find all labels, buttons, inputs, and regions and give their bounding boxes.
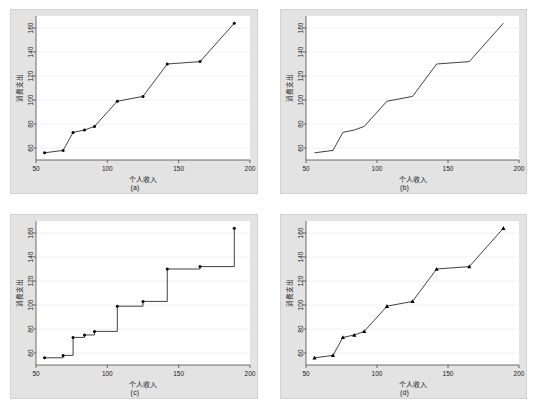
y-tick-label: 60 xyxy=(297,349,304,357)
data-point-marker xyxy=(62,354,65,357)
y-tick-label: 160 xyxy=(27,22,34,33)
x-tick-label: 50 xyxy=(32,165,40,172)
y-tick-label: 120 xyxy=(297,70,304,81)
y-tick-label: 100 xyxy=(297,299,304,310)
y-tick-label: 80 xyxy=(27,120,34,128)
y-tick-label: 60 xyxy=(297,144,304,152)
plot-area-background xyxy=(306,221,519,365)
chart-panel-a: 608010012014016050100150200个人收入消费支出 (a) xyxy=(0,0,270,205)
y-tick-label: 80 xyxy=(297,325,304,333)
chart-group: 608010012014016050100150200个人收入消费支出 xyxy=(15,16,256,184)
data-point-marker xyxy=(142,300,145,303)
y-tick-label: 140 xyxy=(27,46,34,57)
chart-group: 608010012014016050100150200个人收入消费支出 xyxy=(285,221,525,389)
subplot-label-a: (a) xyxy=(0,184,270,191)
y-tick-label: 80 xyxy=(297,120,304,128)
data-point-marker xyxy=(233,22,236,25)
x-tick-label: 50 xyxy=(302,370,310,377)
y-tick-label: 100 xyxy=(27,299,34,310)
chart-svg-a: 608010012014016050100150200个人收入消费支出 xyxy=(0,0,270,205)
data-point-marker xyxy=(199,60,202,63)
data-point-marker xyxy=(233,227,236,230)
y-tick-label: 100 xyxy=(297,94,304,105)
y-tick-label: 160 xyxy=(297,22,304,33)
y-tick-label: 120 xyxy=(27,70,34,81)
figure-grid: 608010012014016050100150200个人收入消费支出 (a) … xyxy=(0,0,539,410)
y-tick-label: 160 xyxy=(297,227,304,238)
x-tick-label: 200 xyxy=(245,165,256,172)
y-axis-title: 消费支出 xyxy=(285,279,294,307)
plot-area-background xyxy=(36,221,250,365)
x-tick-label: 100 xyxy=(372,165,383,172)
data-point-marker xyxy=(72,131,75,134)
plot-area-background xyxy=(36,16,250,160)
x-tick-label: 100 xyxy=(102,370,113,377)
y-tick-label: 60 xyxy=(27,144,34,152)
chart-svg-c: 608010012014016050100150200个人收入消费支出 xyxy=(0,205,270,410)
chart-panel-d: 608010012014016050100150200个人收入消费支出 (d) xyxy=(270,205,539,410)
data-point-marker xyxy=(43,151,46,154)
plot-area-background xyxy=(306,16,519,160)
y-tick-label: 140 xyxy=(297,46,304,57)
chart-panel-b: 608010012014016050100150200个人收入消费支出 (b) xyxy=(270,0,539,205)
data-point-marker xyxy=(72,336,75,339)
x-tick-label: 150 xyxy=(173,370,184,377)
data-point-marker xyxy=(116,305,119,308)
y-tick-label: 100 xyxy=(27,94,34,105)
y-axis-title: 消费支出 xyxy=(15,279,24,307)
x-axis-title: 个人收入 xyxy=(129,175,157,184)
data-point-marker xyxy=(93,125,96,128)
data-point-marker xyxy=(83,334,86,337)
chart-group: 608010012014016050100150200个人收入消费支出 xyxy=(285,16,525,184)
x-tick-label: 150 xyxy=(443,370,454,377)
x-tick-label: 200 xyxy=(514,370,525,377)
chart-svg-d: 608010012014016050100150200个人收入消费支出 xyxy=(270,205,539,410)
subplot-label-b: (b) xyxy=(270,184,539,191)
x-axis-title: 个人收入 xyxy=(399,380,427,389)
y-axis-title: 消费支出 xyxy=(285,74,294,102)
y-axis-title: 消费支出 xyxy=(15,74,24,102)
data-point-marker xyxy=(116,100,119,103)
y-tick-label: 60 xyxy=(27,349,34,357)
x-tick-label: 200 xyxy=(245,370,256,377)
y-tick-label: 80 xyxy=(27,325,34,333)
chart-panel-c: 608010012014016050100150200个人收入消费支出 (c) xyxy=(0,205,270,410)
x-tick-label: 50 xyxy=(302,165,310,172)
x-axis-title: 个人收入 xyxy=(129,380,157,389)
y-tick-label: 160 xyxy=(27,227,34,238)
data-point-marker xyxy=(93,330,96,333)
y-tick-label: 140 xyxy=(27,251,34,262)
y-tick-label: 120 xyxy=(27,275,34,286)
x-tick-label: 200 xyxy=(514,165,525,172)
data-point-marker xyxy=(166,268,169,271)
x-tick-label: 50 xyxy=(32,370,40,377)
data-point-marker xyxy=(83,129,86,132)
data-point-marker xyxy=(142,95,145,98)
x-tick-label: 150 xyxy=(173,165,184,172)
x-tick-label: 100 xyxy=(102,165,113,172)
y-tick-label: 120 xyxy=(297,275,304,286)
data-point-marker xyxy=(166,63,169,66)
data-point-marker xyxy=(199,265,202,268)
data-point-marker xyxy=(43,356,46,359)
subplot-label-d: (d) xyxy=(270,389,539,396)
x-tick-label: 100 xyxy=(372,370,383,377)
subplot-label-c: (c) xyxy=(0,389,270,396)
chart-svg-b: 608010012014016050100150200个人收入消费支出 xyxy=(270,0,539,205)
chart-group: 608010012014016050100150200个人收入消费支出 xyxy=(15,221,256,389)
x-tick-label: 150 xyxy=(443,165,454,172)
y-tick-label: 140 xyxy=(297,251,304,262)
x-axis-title: 个人收入 xyxy=(399,175,427,184)
data-point-marker xyxy=(62,149,65,152)
